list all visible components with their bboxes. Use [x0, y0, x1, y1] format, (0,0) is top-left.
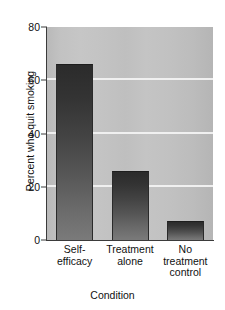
y-axis-tick-label: 80 [14, 21, 40, 33]
plot-area [47, 27, 213, 240]
y-axis-tick-label: 20 [14, 181, 40, 193]
x-axis-tick-labels: Self-efficacyTreatmentaloneNotreatmentco… [47, 244, 213, 279]
y-axis-tick-label: 0 [14, 234, 40, 246]
y-axis-tick-label: 60 [14, 74, 40, 86]
x-axis-title: Condition [0, 289, 225, 301]
x-axis-category-line: control [159, 267, 212, 279]
x-axis-category-label: Self-efficacy [47, 244, 102, 279]
x-axis-category-line: No [159, 244, 212, 256]
bar[interactable] [112, 171, 149, 240]
x-axis-category-line: Self- [48, 244, 101, 256]
x-axis-category-line: Treatment [103, 244, 156, 256]
bar[interactable] [56, 64, 93, 240]
bar[interactable] [167, 221, 204, 240]
bar-chart-figure: Percent who quit smoking 020406080 Self-… [0, 0, 225, 310]
x-axis-category-label: Notreatmentcontrol [158, 244, 213, 279]
x-axis-line [46, 240, 214, 241]
x-axis-category-line: efficacy [48, 256, 101, 268]
y-axis-tick-labels: 020406080 [14, 0, 40, 310]
x-axis-category-label: Treatmentalone [102, 244, 157, 279]
x-axis-category-line: alone [103, 256, 156, 268]
y-axis-tick-label: 40 [14, 128, 40, 140]
